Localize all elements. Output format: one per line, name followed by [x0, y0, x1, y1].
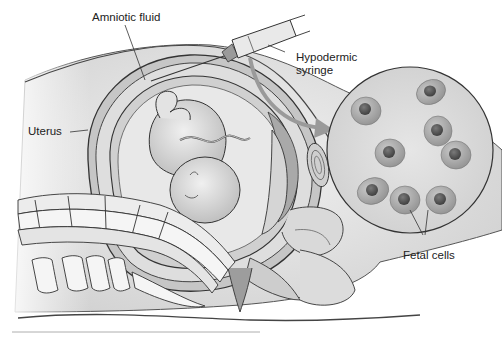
diagram-artwork	[0, 0, 502, 346]
label-amniotic-fluid: Amniotic fluid	[92, 11, 160, 24]
fetal-cell	[424, 116, 452, 146]
fetal-cell	[351, 97, 381, 125]
label-hypodermic-syringe-line1: Hypodermic	[296, 51, 357, 64]
fetal-cell	[441, 141, 471, 169]
fetal-cell	[375, 139, 405, 167]
amniocentesis-diagram: Amniotic fluid Hypodermic syringe Uterus…	[0, 0, 502, 346]
magnified-view	[327, 67, 493, 233]
fetal-cell	[390, 186, 420, 214]
label-fetal-cells: Fetal cells	[403, 249, 455, 262]
label-uterus: Uterus	[28, 125, 62, 138]
label-hypodermic-syringe-line2: syringe	[296, 64, 333, 77]
fetal-cell	[426, 186, 456, 214]
